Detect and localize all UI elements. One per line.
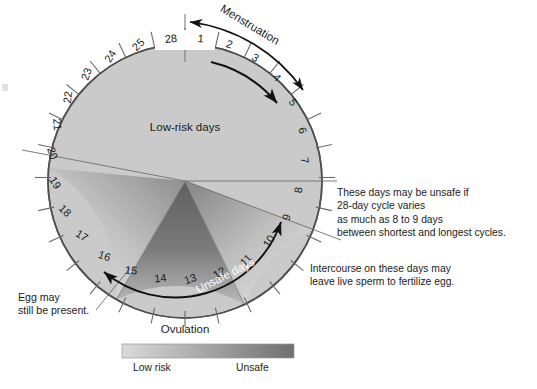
day-label-21: 21 — [51, 118, 64, 132]
note-cycle-variation: These days may be unsafe if 28-day cycle… — [337, 186, 506, 240]
day-label-22: 22 — [61, 91, 74, 105]
legend-label-unsafe: Unsafe — [236, 362, 269, 373]
day-label-2: 2 — [225, 37, 235, 50]
day-label-15: 15 — [124, 263, 138, 276]
legend-label-low-risk: Low risk — [133, 362, 171, 373]
low-risk-label: Low-risk days — [150, 121, 221, 133]
note-intercourse: Intercourse on these days may leave live… — [310, 262, 454, 289]
day-label-14: 14 — [154, 271, 168, 284]
day-labels-top-left: 28 1 — [155, 30, 215, 50]
day-label-28b: 28 — [164, 32, 178, 45]
egg-present-note: Egg may still be present. — [18, 291, 89, 316]
legend-gradient-bar — [122, 344, 294, 358]
day-label-23: 23 — [78, 66, 93, 82]
ovulation-label: Ovulation — [161, 323, 210, 335]
fertility-cycle-figure: 1 2 3 4 5 6 7 8 9 10 11 12 13 14 15 16 1… — [0, 0, 537, 389]
